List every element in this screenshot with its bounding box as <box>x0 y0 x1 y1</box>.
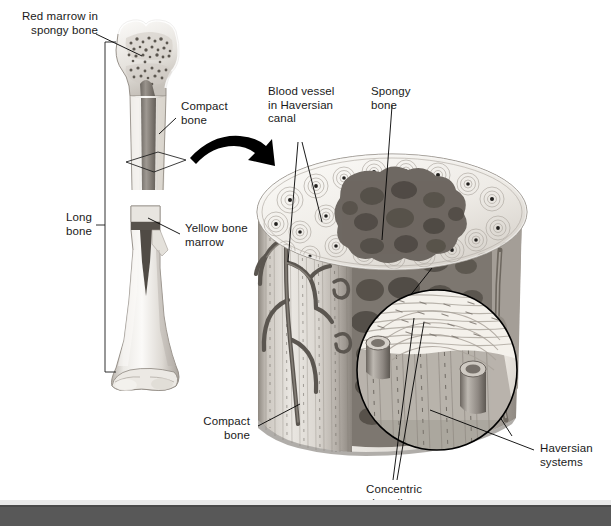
haversian-canal-tube-left <box>366 336 390 379</box>
label-blood-vessel: Blood vessel in Haversian canal <box>268 85 352 126</box>
label-long-bone: Long bone <box>30 211 92 238</box>
haversian-canal-tube-right <box>460 361 486 414</box>
bone-block-3d <box>256 154 527 456</box>
label-compact-bone-top: Compact bone <box>181 100 251 127</box>
label-red-marrow: Red marrow in spongy bone <box>2 10 98 37</box>
footer-dark-band <box>0 505 611 526</box>
label-yellow-marrow: Yellow bone marrow <box>185 222 265 249</box>
lower-long-bone <box>112 206 180 391</box>
curved-arrow-icon <box>190 136 275 166</box>
range-bracket-icon <box>105 42 116 372</box>
label-haversian-systems: Haversian systems <box>540 442 610 469</box>
footer-dark-edge <box>0 505 611 507</box>
label-spongy-bone: Spongy bone <box>371 85 431 112</box>
upper-long-bone <box>116 20 186 190</box>
bone-illustration <box>0 0 611 526</box>
label-compact-bone-bottom: Compact bone <box>186 415 250 442</box>
bone-structure-figure: Red marrow in spongy bone Compact bone L… <box>0 0 611 526</box>
